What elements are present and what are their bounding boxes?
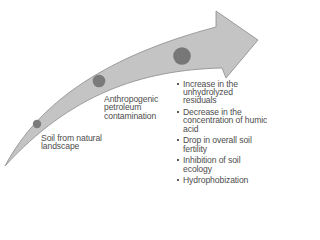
effect-item: Drop in overall soil fertility — [176, 136, 267, 152]
effect-text: Decrease in the concentration of humic a… — [183, 107, 267, 133]
effect-item: Hydrophobization — [176, 176, 267, 184]
stage-marker-effects — [173, 47, 191, 65]
effect-text: Hydrophobization — [183, 175, 248, 185]
effect-text: Inhibition of soil ecology — [183, 155, 240, 173]
effect-item: Increase in the unhydrolyzed residuals — [176, 80, 267, 105]
label-line: contamination — [104, 112, 158, 120]
stage-label-contamination: Anthropogenic petroleum contamination — [104, 95, 158, 120]
bullet-icon — [177, 139, 179, 141]
effect-text: Increase in the unhydrolyzed residuals — [183, 79, 238, 105]
effect-text: Drop in overall soil fertility — [183, 135, 252, 153]
effects-list: Increase in the unhydrolyzed residuals D… — [176, 80, 267, 188]
stage-label-natural-soil: Soil from natural landscape — [41, 134, 102, 151]
label-line: landscape — [41, 142, 102, 150]
bullet-icon — [177, 159, 179, 161]
stage-marker-contamination — [93, 75, 106, 88]
effect-item: Inhibition of soil ecology — [176, 156, 267, 172]
effect-item: Decrease in the concentration of humic a… — [176, 108, 267, 133]
bullet-icon — [177, 83, 179, 85]
bullet-icon — [177, 179, 179, 181]
bullet-icon — [177, 111, 179, 113]
stage-marker-natural-soil — [33, 120, 41, 128]
